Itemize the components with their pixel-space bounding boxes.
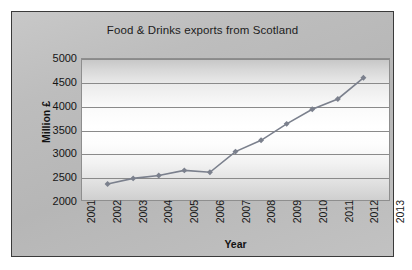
x-axis-tick-label: 2003 — [137, 200, 149, 234]
data-point-marker — [105, 181, 111, 187]
y-axis-tick-labels: 5000450040003500300025002000 — [36, 58, 77, 201]
x-axis-tick-label: 2002 — [111, 200, 123, 234]
x-axis-tick-label: 2008 — [265, 200, 277, 234]
x-axis-tick-labels: 2001200220032004200520062007200820092010… — [81, 202, 390, 236]
x-axis-tick-label: 2006 — [214, 200, 226, 234]
y-axis-tick-label: 5000 — [53, 52, 77, 64]
data-series-svg — [82, 59, 389, 200]
chart-card: Food & Drinks exports from Scotland Mill… — [11, 11, 394, 257]
y-axis-tick-label: 3500 — [53, 124, 77, 136]
x-axis-tick-label: 2011 — [343, 200, 355, 234]
y-axis-tick-label: 2000 — [53, 195, 77, 207]
chart-title: Food & Drinks exports from Scotland — [12, 24, 393, 36]
y-axis-tick-label: 3000 — [53, 147, 77, 159]
data-point-marker — [156, 173, 162, 179]
x-axis-tick-label: 2004 — [162, 200, 174, 234]
x-axis-title: Year — [81, 238, 390, 250]
y-axis-tick-label: 2500 — [53, 171, 77, 183]
x-axis-tick-label: 2005 — [188, 200, 200, 234]
x-axis-tick-label: 2001 — [85, 200, 97, 234]
y-axis-tick-label: 4000 — [53, 100, 77, 112]
data-point-marker — [130, 175, 136, 181]
x-axis-tick-label: 2010 — [317, 200, 329, 234]
series-line — [108, 78, 364, 184]
y-axis-tick-label: 4500 — [53, 76, 77, 88]
x-axis-tick-label: 2013 — [394, 200, 406, 234]
x-axis-tick-label: 2007 — [240, 200, 252, 234]
screenshot-root: Food & Drinks exports from Scotland Mill… — [0, 0, 412, 270]
data-point-marker — [181, 167, 187, 173]
x-axis-tick-label: 2009 — [291, 200, 303, 234]
x-axis-tick-label: 2012 — [368, 200, 380, 234]
plot-area — [81, 58, 390, 201]
